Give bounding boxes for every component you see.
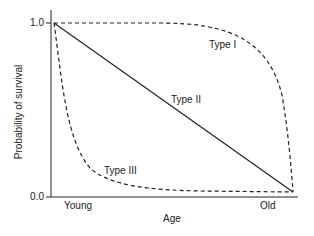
x-tick-label-young: Young <box>64 200 92 211</box>
type-iii-label: Type III <box>104 165 137 176</box>
type-ii-label: Type II <box>171 94 201 105</box>
y-tick-label-1: 1.0 <box>30 17 44 28</box>
x-axis-title: Age <box>163 213 181 224</box>
type-i-label: Type I <box>209 39 236 50</box>
type-ii-line <box>54 23 293 192</box>
survivorship-chart: 1.0 0.0 Young Old Age Probability of sur… <box>0 0 314 236</box>
x-tick-label-old: Old <box>260 200 276 211</box>
y-tick-label-0: 0.0 <box>30 191 44 202</box>
y-axis-title: Probability of survival <box>13 65 24 159</box>
